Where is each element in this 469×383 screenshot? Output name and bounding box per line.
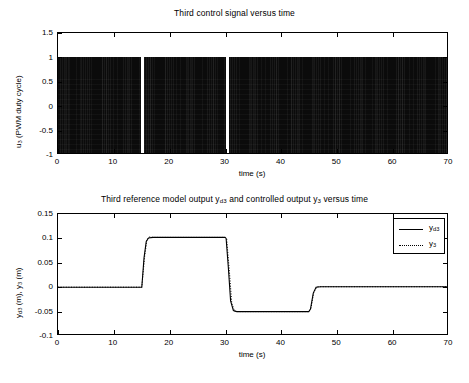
top-xtick-20 (170, 149, 171, 153)
legend-label-yd3-sub: d3 (433, 227, 439, 233)
bottom-ytick-mark-neg0_05 (58, 312, 62, 313)
top-ytick-mark-1 (58, 57, 62, 58)
bottom-xtick-30-upper (226, 214, 227, 218)
top-xticklabel-40: 40 (276, 157, 285, 166)
pwm-signal-band (58, 57, 448, 154)
top-ytick-neg0_5: -0.5 (18, 125, 53, 134)
bottom-xtick-40 (281, 330, 282, 334)
top-xtick-50 (337, 149, 338, 153)
bottom-xtick-20-upper (170, 214, 171, 218)
top-ytick-mark-1-right (443, 57, 447, 58)
bottom-xtick-60 (393, 330, 394, 334)
top-xticklabel-30: 30 (220, 157, 229, 166)
series-yd3-line (58, 237, 448, 311)
bottom-xtick-50-upper (337, 214, 338, 218)
top-plot-title: Third control signal versus time (0, 8, 469, 18)
top-ytick-mark-0-right (443, 106, 447, 107)
pwm-switching-texture (58, 57, 448, 154)
bottom-ytick-mark-0_05-right (443, 263, 447, 264)
bottom-ytick-mark-0 (58, 287, 62, 288)
bottom-xticklabel-70: 70 (444, 338, 453, 347)
bottom-plot-title: Third reference model output yd3 and con… (0, 194, 469, 206)
top-xtick-70 (447, 149, 448, 153)
bottom-ytick-0_05: 0.05 (16, 257, 53, 266)
top-ytick-mark-0_5-right (443, 82, 447, 83)
bottom-xticklabel-50: 50 (332, 338, 341, 347)
top-xticklabel-60: 60 (388, 157, 397, 166)
bottom-xticklabel-40: 40 (276, 338, 285, 347)
top-xtick-40 (281, 149, 282, 153)
top-ytick-mark-0 (58, 106, 62, 107)
output-tracking-plot-panel: Third reference model output yd3 and con… (0, 186, 469, 383)
top-xtick-10 (114, 149, 115, 153)
top-xticklabel-20: 20 (164, 157, 173, 166)
top-ylabel-sub: 3 (17, 140, 23, 143)
bottom-ytick-mark-neg0_05-right (443, 312, 447, 313)
top-xticklabel-0: 0 (55, 157, 59, 166)
bottom-xtick-30 (226, 330, 227, 334)
bottom-xtick-10 (114, 330, 115, 334)
top-xtick-30-upper (226, 33, 227, 37)
bottom-xtick-10-upper (114, 214, 115, 218)
top-xticklabel-50: 50 (332, 157, 341, 166)
top-ytick-mark-1_5 (58, 33, 62, 34)
top-ytick-1_5: 1.5 (18, 28, 53, 37)
series-y3-line (58, 237, 448, 312)
bottom-xticklabel-20: 20 (164, 338, 173, 347)
bottom-ytick-0_1: 0.1 (16, 233, 53, 242)
bottom-ytick-0_15: 0.15 (16, 209, 53, 218)
bottom-xtick-70 (447, 330, 448, 334)
top-xtick-20-upper (170, 33, 171, 37)
legend-line-sample-dotted-icon (399, 241, 423, 249)
legend-label-yd3: yd3 (429, 223, 439, 234)
bottom-ytick-mark-0_1 (58, 238, 62, 239)
bottom-xticklabel-0: 0 (55, 338, 59, 347)
bottom-plot-legend[interactable]: yd3 y3 (393, 218, 445, 254)
legend-label-y3: y3 (429, 239, 436, 250)
bottom-ytick-mark-0-right (443, 287, 447, 288)
bottom-title-sub-d3: d3 (220, 197, 227, 204)
top-xticklabel-10: 10 (108, 157, 117, 166)
bottom-ytick-neg0_05: -0.05 (16, 306, 53, 315)
top-plot-xlabel: time (s) (239, 169, 266, 178)
bottom-ytick-mark-0_05 (58, 263, 62, 264)
control-signal-plot-panel: Third control signal versus time u3 (PWM… (0, 0, 469, 186)
bottom-plot-axes: yd3 y3 (57, 213, 448, 335)
matlab-figure: Third control signal versus time u3 (PWM… (0, 0, 469, 383)
top-ylabel-base: u (14, 144, 23, 148)
legend-entry-yd3[interactable]: yd3 (394, 222, 439, 236)
top-xtick-60 (393, 149, 394, 153)
bottom-ytick-0: 0 (16, 282, 53, 291)
top-plot-axes (57, 32, 448, 154)
top-xtick-50-upper (337, 33, 338, 37)
legend-entry-y3[interactable]: y3 (394, 238, 436, 252)
top-xtick-30 (226, 149, 227, 153)
top-ytick-mark-0_5 (58, 82, 62, 83)
top-ytick-neg1: -1 (18, 150, 53, 159)
bottom-xticklabel-60: 60 (388, 338, 397, 347)
bottom-title-part-3: versus time (321, 194, 368, 204)
top-xtick-10-upper (114, 33, 115, 37)
pwm-zero-duty-gap-t15 (141, 57, 144, 154)
bottom-plot-xlabel: time (s) (239, 350, 266, 359)
top-xtick-40-upper (281, 33, 282, 37)
top-ytick-0: 0 (18, 101, 53, 110)
pwm-zero-duty-gap-t30 (226, 57, 229, 154)
bottom-xtick-0 (58, 330, 59, 334)
bottom-xticklabel-10: 10 (108, 338, 117, 347)
bottom-ytick-neg0_1: -0.1 (16, 331, 53, 340)
top-xtick-0 (58, 149, 59, 153)
legend-label-y3-sub: 3 (433, 243, 436, 249)
bottom-xticklabel-30: 30 (220, 338, 229, 347)
bottom-xtick-40-upper (281, 214, 282, 218)
top-xtick-60-upper (393, 33, 394, 37)
top-ytick-1: 1 (18, 52, 53, 61)
bottom-title-part-1: Third reference model output y (101, 194, 220, 204)
bottom-xtick-20 (170, 330, 171, 334)
top-plot-ylabel: u3 (PWM duty cycle) (14, 75, 25, 148)
bottom-title-part-2: and controlled output y (227, 194, 318, 204)
top-ytick-mark-neg0_5-right (443, 131, 447, 132)
tracking-curves (58, 214, 448, 335)
top-xticklabel-70: 70 (444, 157, 453, 166)
bottom-xtick-50 (337, 330, 338, 334)
